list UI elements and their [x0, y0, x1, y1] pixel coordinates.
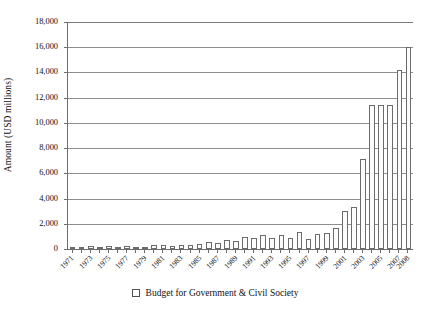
x-axis-tick-label: 1977: [114, 254, 130, 270]
x-axis-tick-mark: [81, 249, 82, 253]
x-axis-tick-label: 1983: [168, 254, 184, 270]
x-axis-tick-label: 1987: [205, 254, 221, 270]
x-axis-tick-mark: [371, 249, 372, 253]
x-axis-tick-label: 1971: [59, 254, 75, 270]
y-axis-tick-label: 18,000: [35, 18, 58, 26]
x-axis-tick-mark: [180, 249, 181, 253]
x-axis-tick-mark: [299, 249, 300, 253]
x-axis-tick-mark: [326, 249, 327, 253]
x-axis-tick-mark: [217, 249, 218, 253]
bar: [233, 241, 239, 249]
x-axis-tick-mark: [153, 249, 154, 253]
x-axis-tick-mark: [244, 249, 245, 253]
x-axis-tick-mark: [353, 249, 354, 253]
y-axis-tick-label: 10,000: [35, 119, 58, 127]
bar: [351, 207, 357, 249]
bar: [406, 47, 412, 249]
x-axis-tick-label: 1989: [223, 254, 239, 270]
x-axis-tick-mark: [308, 249, 309, 253]
bar: [297, 232, 303, 249]
y-axis-tick-label: 16,000: [35, 43, 58, 51]
bar: [378, 105, 384, 249]
x-axis-tick-label: 1999: [314, 254, 330, 270]
x-axis-tick-mark: [262, 249, 263, 253]
bar: [260, 235, 266, 250]
legend: Budget for Government & Civil Society: [0, 288, 430, 298]
y-axis-tick-label: 6,000: [39, 169, 58, 177]
x-axis-tick-mark: [271, 249, 272, 253]
x-axis-tick-mark: [99, 249, 100, 253]
x-axis-tick-mark: [235, 249, 236, 253]
bar: [242, 237, 248, 249]
y-axis-tick-label: 2,000: [39, 220, 58, 228]
bar: [333, 228, 339, 249]
y-axis-title: Amount (USD millions): [0, 0, 16, 250]
bar: [397, 70, 403, 249]
x-axis-tick-mark: [407, 249, 408, 253]
x-axis-tick-mark: [162, 249, 163, 253]
x-axis-tick-label: 1979: [132, 254, 148, 270]
bar: [369, 105, 375, 249]
legend-label: Budget for Government & Civil Society: [146, 288, 299, 298]
x-axis-tick-mark: [190, 249, 191, 253]
x-axis-tick-mark: [317, 249, 318, 253]
bar: [279, 235, 285, 249]
x-axis: 1971197319751977197919811983198519871989…: [67, 249, 413, 311]
x-axis-tick-label: 2001: [332, 254, 348, 270]
bar: [288, 238, 294, 249]
plot-area: [67, 22, 413, 250]
x-axis-tick-mark: [208, 249, 209, 253]
x-axis-tick-mark: [362, 249, 363, 253]
y-axis-tick-label: 12,000: [35, 93, 58, 101]
bar: [324, 233, 330, 249]
x-axis-tick-mark: [126, 249, 127, 253]
x-axis-tick-mark: [344, 249, 345, 253]
bar: [387, 105, 393, 249]
x-axis-tick-label: 2003: [350, 254, 366, 270]
x-axis-tick-mark: [144, 249, 145, 253]
bar: [206, 242, 212, 249]
x-axis-tick-mark: [199, 249, 200, 253]
bar: [360, 159, 366, 249]
x-axis-tick-mark: [335, 249, 336, 253]
bar: [306, 239, 312, 249]
bar: [315, 234, 321, 249]
x-axis-tick-mark: [117, 249, 118, 253]
y-axis-title-text: Amount (USD millions): [3, 78, 13, 172]
bar-chart-figure: Amount (USD millions) 02,0004,0006,0008,…: [0, 0, 430, 311]
y-axis-tick-label: 4,000: [39, 194, 58, 202]
bar: [269, 238, 275, 249]
x-axis-tick-mark: [398, 249, 399, 253]
x-axis-tick-mark: [226, 249, 227, 253]
x-axis-tick-mark: [72, 249, 73, 253]
x-axis-tick-mark: [389, 249, 390, 253]
legend-swatch-icon: [132, 289, 140, 297]
x-axis-tick-mark: [280, 249, 281, 253]
x-axis-tick-mark: [135, 249, 136, 253]
y-axis-tick-labels: 02,0004,0006,0008,00010,00012,00014,0001…: [16, 22, 63, 249]
bar: [224, 240, 230, 249]
x-axis-tick-mark: [90, 249, 91, 253]
x-axis-tick-mark: [253, 249, 254, 253]
x-axis-tick-label: 1997: [295, 254, 311, 270]
x-axis-tick-mark: [108, 249, 109, 253]
x-axis-tick-mark: [171, 249, 172, 253]
x-axis-tick-label: 1981: [150, 254, 166, 270]
y-axis-tick-label: 14,000: [35, 68, 58, 76]
x-axis-tick-label: 1991: [241, 254, 257, 270]
x-axis-tick-label: 1973: [78, 254, 94, 270]
x-axis-tick-label: 1985: [187, 254, 203, 270]
y-axis-tick-label: 8,000: [39, 144, 58, 152]
x-axis-tick-mark: [289, 249, 290, 253]
x-axis-tick-label: 1995: [277, 254, 293, 270]
bar: [342, 211, 348, 249]
bars-container: [68, 22, 413, 249]
bar: [251, 238, 257, 249]
y-axis-tick-label: 0: [54, 245, 58, 253]
x-axis-tick-label: 2005: [368, 254, 384, 270]
x-axis-tick-label: 1975: [96, 254, 112, 270]
x-axis-tick-mark: [380, 249, 381, 253]
x-axis-tick-label: 1993: [259, 254, 275, 270]
